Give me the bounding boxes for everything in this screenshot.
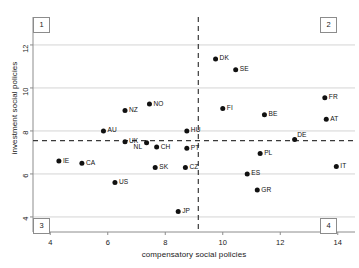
point-label-JP: JP (182, 207, 190, 214)
data-point-AT (324, 117, 329, 122)
point-label-DE: DE (297, 131, 306, 138)
data-point-US (112, 180, 117, 185)
x-tick-label-14: 14 (328, 238, 348, 247)
data-point-IT (334, 164, 339, 169)
point-label-HU: HU (191, 126, 201, 133)
x-tick-label-8: 8 (155, 238, 175, 247)
data-point-DK (213, 56, 218, 61)
quadrant-2-box: 2 (320, 17, 337, 33)
y-tick-label-12: 12 (21, 44, 30, 58)
point-label-SE: SE (240, 65, 249, 72)
data-point-SE (233, 67, 238, 72)
point-label-FR: FR (329, 93, 338, 100)
point-label-CA: CA (86, 159, 95, 166)
data-point-SK (153, 165, 158, 170)
point-label-PT: PT (191, 144, 200, 151)
point-label-BE: BE (268, 110, 277, 117)
data-point-PL (258, 151, 263, 156)
data-point-GR (255, 188, 260, 193)
point-label-FI: FI (227, 104, 233, 111)
data-point-CZ (183, 165, 188, 170)
y-tick-label-8: 8 (21, 130, 30, 144)
data-point-JP (176, 209, 181, 214)
scatter-plot-figure: investment social policies compensatory … (0, 0, 359, 268)
point-label-DK: DK (220, 54, 229, 61)
point-label-SK: SK (159, 163, 168, 170)
point-label-NL: NL (134, 143, 143, 150)
data-point-NL (144, 140, 149, 145)
data-point-FR (322, 95, 327, 100)
point-label-IT: IT (340, 162, 346, 169)
x-tick-label-10: 10 (213, 238, 233, 247)
quadrant-1-box: 1 (33, 17, 50, 33)
data-point-NO (147, 102, 152, 107)
point-label-NZ: NZ (129, 106, 138, 113)
x-tick-label-12: 12 (270, 238, 290, 247)
point-label-PL: PL (264, 149, 272, 156)
data-point-CH (154, 145, 159, 150)
point-label-CZ: CZ (189, 163, 198, 170)
x-axis-title: compensatory social policies (33, 250, 355, 259)
x-tick-label-4: 4 (40, 238, 60, 247)
quadrant-4-box: 4 (320, 218, 337, 234)
data-point-UK (123, 139, 128, 144)
data-point-AU (101, 128, 106, 133)
data-point-PT (184, 146, 189, 151)
point-label-CH: CH (161, 143, 171, 150)
y-tick-label-6: 6 (21, 173, 30, 187)
y-tick-label-4: 4 (21, 216, 30, 230)
data-point-ES (245, 171, 250, 176)
point-label-ES: ES (251, 169, 260, 176)
quadrant-3-box: 3 (33, 218, 50, 234)
x-tick-label-6: 6 (98, 238, 118, 247)
y-tick-label-10: 10 (21, 87, 30, 101)
data-point-BE (262, 112, 267, 117)
data-point-IE (56, 159, 61, 164)
data-point-CA (79, 161, 84, 166)
point-label-AU: AU (107, 126, 116, 133)
point-label-NO: NO (153, 100, 163, 107)
data-point-FI (220, 106, 225, 111)
point-label-AT: AT (330, 115, 338, 122)
point-label-US: US (119, 178, 128, 185)
point-label-GR: GR (261, 186, 271, 193)
y-axis-title: investment social policies (10, 8, 19, 208)
data-point-DE (292, 137, 297, 142)
data-point-HU (184, 128, 189, 133)
data-point-NZ (123, 108, 128, 113)
point-label-IE: IE (63, 157, 69, 164)
